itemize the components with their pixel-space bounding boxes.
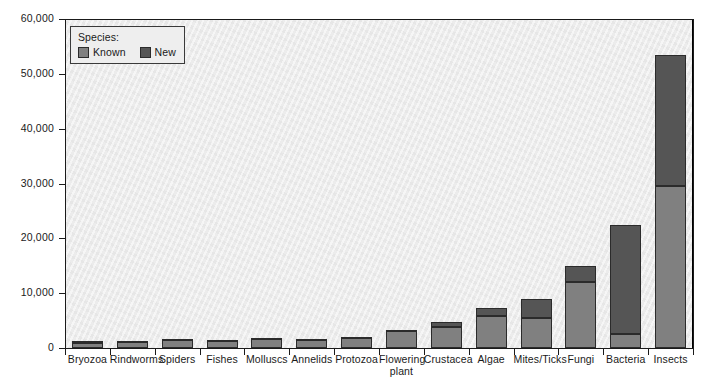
x-axis-tick-label: Mites/Ticks	[514, 354, 559, 366]
y-axis-tick-label: 50,000	[0, 67, 54, 79]
stacked-bar-chart: 010,00020,00030,00040,00050,00060,000 Br…	[0, 0, 707, 388]
y-axis-tick	[59, 74, 65, 75]
legend-entry-new: New	[140, 46, 176, 58]
x-axis-tick-label: Molluscs	[244, 354, 289, 366]
y-axis-tick	[59, 293, 65, 294]
y-axis-tick-label: 10,000	[0, 286, 54, 298]
x-axis-tick-label: Fungi	[558, 354, 603, 366]
x-axis-tick-label: Spiders	[155, 354, 200, 366]
y-axis-tick-label: 60,000	[0, 12, 54, 24]
x-axis-tick	[693, 349, 694, 355]
legend-label: Known	[93, 46, 126, 58]
y-axis-tick	[59, 184, 65, 185]
x-axis-tick-label: Bryozoa	[65, 354, 110, 366]
legend-swatch-known	[78, 47, 89, 58]
legend-title: Species:	[78, 31, 176, 43]
x-axis-tick-label: Flowering plant	[379, 354, 424, 377]
y-axis-tick	[59, 19, 65, 20]
x-axis-tick-label: Rindworms	[110, 354, 155, 366]
legend-label: New	[155, 46, 176, 58]
x-axis-tick-label: Crustacea	[424, 354, 469, 366]
y-axis-tick-label: 0	[0, 341, 54, 353]
x-axis-tick-label: Fishes	[200, 354, 245, 366]
x-axis-tick-label: Bacteria	[603, 354, 648, 366]
x-axis-tick-label: Annelids	[289, 354, 334, 366]
y-axis-tick-label: 20,000	[0, 231, 54, 243]
legend-entry-known: Known	[78, 46, 126, 58]
y-axis-tick-label: 40,000	[0, 122, 54, 134]
y-axis-tick	[59, 238, 65, 239]
y-axis-tick	[59, 129, 65, 130]
x-axis-tick-label: Algae	[469, 354, 514, 366]
legend-swatch-new	[140, 47, 151, 58]
y-axis-tick-label: 30,000	[0, 177, 54, 189]
x-axis-tick-label: Protozoa	[334, 354, 379, 366]
x-axis-tick-label: Insects	[648, 354, 693, 366]
legend-entries: KnownNew	[78, 46, 176, 58]
legend: Species: KnownNew	[70, 26, 185, 64]
